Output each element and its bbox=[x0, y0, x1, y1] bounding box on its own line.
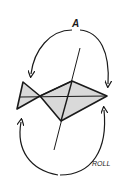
upper-left-arrow-icon bbox=[31, 30, 72, 74]
upper-right-arrow-icon bbox=[80, 30, 108, 84]
roll-diagram: A ROLL bbox=[0, 0, 128, 184]
label-a: A bbox=[71, 18, 79, 29]
fish-body bbox=[40, 81, 107, 121]
label-roll: ROLL bbox=[92, 160, 110, 167]
lower-left-arrow-icon bbox=[20, 122, 58, 175]
fish-icon bbox=[17, 81, 107, 121]
fish-tail bbox=[17, 82, 40, 109]
